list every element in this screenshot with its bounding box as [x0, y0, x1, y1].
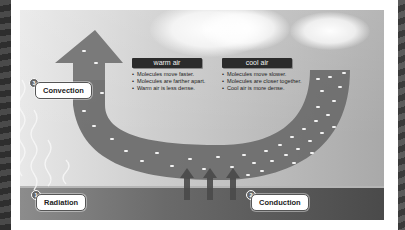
radiation-label: Radiation [36, 194, 86, 211]
page-edge-right [398, 0, 405, 230]
page-edge-left [0, 0, 11, 230]
cool-air-title: cool air [222, 58, 292, 68]
conduction-label: Conduction [251, 194, 309, 211]
cool-air-list: Molecules move slower. Molecules are clo… [222, 71, 332, 93]
heat-transfer-diagram: warm air Molecules move faster. Molecule… [20, 10, 384, 220]
cool-air-panel: cool air Molecules move slower. Molecule… [222, 58, 332, 93]
diagram-artwork [20, 10, 384, 220]
conduction-arrows [180, 168, 240, 200]
convection-label: Convection [35, 82, 92, 99]
list-item: Cool air is more dense. [222, 85, 332, 92]
up-arrow-icon [55, 30, 123, 80]
list-item: Molecules are closer together. [222, 78, 332, 85]
warm-air-title: warm air [132, 58, 202, 68]
list-item: Molecules move slower. [222, 71, 332, 78]
